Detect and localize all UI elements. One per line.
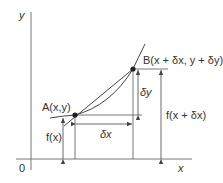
dx-label: δx bbox=[100, 128, 112, 140]
fx-label: f(x) bbox=[46, 131, 62, 143]
derivative-diagram: y x 0 A(x,y) B(x + δx, y + δy) f(x) f(x … bbox=[0, 0, 223, 183]
point-b-label: B(x + δx, y + δy) bbox=[143, 54, 223, 66]
point-b bbox=[130, 66, 135, 71]
dy-label: δy bbox=[140, 86, 153, 98]
y-axis-label: y bbox=[18, 9, 26, 21]
point-a bbox=[72, 112, 77, 117]
fx-dx-label: f(x + δx) bbox=[166, 109, 206, 121]
point-a-label: A(x,y) bbox=[42, 101, 71, 113]
x-axis-label: x bbox=[177, 162, 184, 174]
origin-label: 0 bbox=[19, 162, 25, 174]
